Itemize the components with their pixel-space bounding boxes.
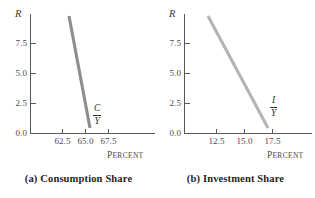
- x-tick-label-b-2: 17.5: [254, 136, 291, 146]
- panel-investment-share: R 0.0 2.5 5.0 7.5 12.5 15.0 17.5 PERCENT…: [157, 0, 314, 198]
- x-axis-unit-rest-a: ERCENT: [112, 151, 143, 160]
- y-tick-label-b-3: 7.5: [157, 38, 181, 48]
- y-tick-label-b-1: 2.5: [157, 98, 181, 108]
- y-axis-label-b: R: [169, 8, 175, 19]
- y-tick-label-a-2: 5.0: [0, 68, 27, 78]
- two-panel-figure: R 0.0 2.5 5.0 7.5 62.5 65.0 67.5 PERCENT…: [0, 0, 315, 198]
- y-tick-label-a-0: 0.0: [0, 128, 27, 138]
- curve-label-investment-ratio: I Y: [270, 96, 277, 118]
- curve-label-numerator-b: I: [270, 96, 277, 106]
- y-axis-label-a: R: [15, 8, 21, 19]
- x-tick-label-a-2: 67.5: [90, 136, 127, 146]
- y-tick-label-b-2: 5.0: [157, 68, 181, 78]
- y-tick-label-b-0: 0.0: [157, 128, 181, 138]
- panel-consumption-share: R 0.0 2.5 5.0 7.5 62.5 65.0 67.5 PERCENT…: [0, 0, 157, 198]
- y-tick-label-a-1: 2.5: [0, 98, 27, 108]
- y-tick-label-a-3: 7.5: [0, 38, 27, 48]
- caption-panel-a: (a) Consumption Share: [0, 173, 157, 184]
- consumption-share-curve: [69, 16, 90, 128]
- curve-label-consumption-ratio: C Y: [93, 104, 101, 126]
- x-axis-unit-label-b: PERCENT: [267, 150, 304, 160]
- caption-panel-b: (b) Investment Share: [157, 173, 314, 184]
- x-axis-unit-rest-b: ERCENT: [272, 151, 303, 160]
- curve-label-numerator-a: C: [93, 104, 101, 114]
- curve-label-denominator-b: Y: [270, 108, 277, 118]
- x-axis-unit-label-a: PERCENT: [107, 150, 144, 160]
- investment-share-curve: [208, 16, 268, 128]
- curve-label-denominator-a: Y: [93, 116, 101, 126]
